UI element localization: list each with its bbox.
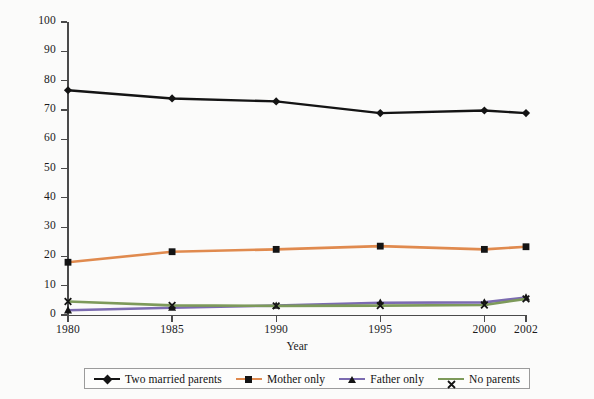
legend-swatch-diamond-icon — [94, 373, 120, 385]
data-point-marker — [376, 109, 384, 117]
y-tick-label: 80 — [16, 73, 56, 85]
legend-label: Father only — [370, 373, 424, 385]
y-tick — [61, 285, 67, 286]
data-point-marker — [523, 243, 530, 250]
y-tick-label: 60 — [16, 131, 56, 143]
data-point-marker — [64, 86, 72, 94]
y-tick — [61, 168, 67, 169]
x-tick — [380, 316, 381, 322]
x-tick-label: 1995 — [355, 323, 405, 335]
y-tick — [61, 256, 67, 257]
legend-entry-3[interactable]: No parents — [438, 373, 520, 385]
series-lines — [68, 22, 526, 315]
legend-entry-1[interactable]: Mother only — [236, 373, 325, 385]
data-point-marker — [481, 246, 488, 253]
legend-label: Two married parents — [125, 373, 222, 385]
x-tick — [484, 316, 485, 322]
data-point-marker — [169, 248, 176, 255]
series-line — [68, 90, 526, 113]
y-tick-label: 100 — [16, 14, 56, 26]
legend-marker-cross-icon — [447, 375, 456, 384]
legend-marker-triangle-icon — [348, 376, 356, 383]
chart-legend: Two married parentsMother onlyFather onl… — [84, 368, 530, 389]
y-tick-label: 10 — [16, 278, 56, 290]
x-tick — [171, 316, 172, 322]
y-tick — [61, 139, 67, 140]
x-tick-label: 1990 — [251, 323, 301, 335]
x-tick-label: 1985 — [147, 323, 197, 335]
x-tick — [67, 316, 68, 322]
legend-swatch-square-icon — [236, 373, 262, 385]
legend-marker-diamond-icon — [102, 374, 112, 384]
data-point-marker — [480, 106, 488, 114]
y-tick — [61, 197, 67, 198]
data-point-marker — [522, 109, 530, 117]
plot-area — [68, 22, 526, 315]
x-tick-label: 1980 — [43, 323, 93, 335]
y-tick-label: 30 — [16, 219, 56, 231]
legend-marker-square-icon — [245, 376, 252, 383]
chart-container: 0102030405060708090100 19801985199019952… — [0, 0, 594, 399]
legend-swatch-triangle-icon — [339, 373, 365, 385]
y-tick — [61, 227, 67, 228]
y-tick — [61, 21, 67, 22]
y-tick — [61, 109, 67, 110]
y-tick-label: 20 — [16, 248, 56, 260]
y-tick — [61, 80, 67, 81]
x-tick — [525, 316, 526, 322]
y-tick-label: 0 — [16, 307, 56, 319]
y-tick — [61, 51, 67, 52]
x-axis-line — [67, 315, 527, 316]
series-line — [68, 246, 526, 262]
data-point-marker — [65, 259, 72, 266]
legend-label: No parents — [469, 373, 520, 385]
y-tick-label: 40 — [16, 190, 56, 202]
legend-label: Mother only — [267, 373, 325, 385]
y-tick-label: 50 — [16, 161, 56, 173]
series-1 — [65, 243, 530, 266]
legend-entry-0[interactable]: Two married parents — [94, 373, 222, 385]
x-tick — [276, 316, 277, 322]
data-point-marker — [377, 243, 384, 250]
y-tick-label: 70 — [16, 102, 56, 114]
legend-swatch-cross-icon — [438, 373, 464, 385]
data-point-marker — [272, 97, 280, 105]
data-point-marker — [168, 94, 176, 102]
series-0 — [64, 86, 530, 117]
data-point-marker — [273, 246, 280, 253]
x-axis-title: Year — [0, 340, 594, 352]
legend-entry-2[interactable]: Father only — [339, 373, 424, 385]
y-tick — [61, 314, 67, 315]
y-tick-label: 90 — [16, 43, 56, 55]
x-tick-label: 2002 — [501, 323, 551, 335]
